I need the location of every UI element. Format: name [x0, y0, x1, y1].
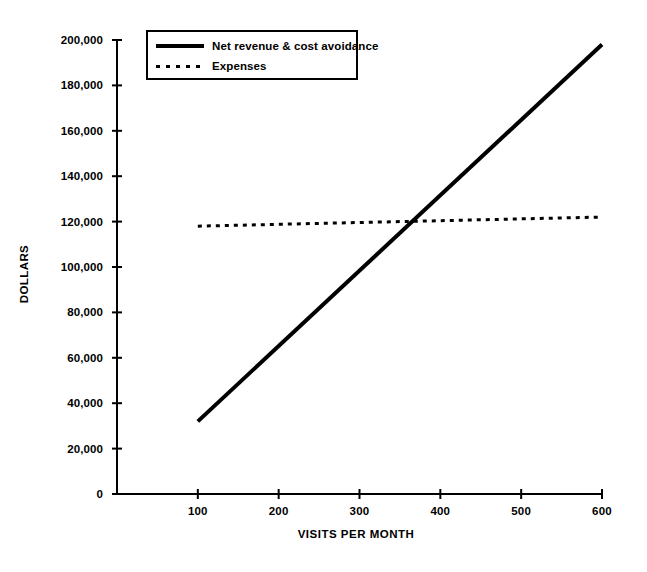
data-series-line	[198, 45, 602, 422]
data-series-line	[198, 217, 602, 226]
legend-item-expenses: Expenses	[154, 56, 267, 76]
x-axis-tick-label: 600	[577, 505, 627, 517]
y-axis-tick-label: 160,000	[0, 125, 103, 137]
legend-solid-line-swatch	[154, 40, 206, 52]
x-axis-tick-label: 200	[254, 505, 304, 517]
x-axis-tick-label: 500	[496, 505, 546, 517]
legend-dashed-line-swatch	[154, 60, 206, 72]
chart-figure: 020,00040,00060,00080,000100,000120,0001…	[0, 0, 647, 572]
y-axis-title: DOLLARS	[18, 234, 30, 314]
data-series-group	[198, 45, 602, 422]
y-axis-tick-label: 140,000	[0, 170, 103, 182]
legend-item-label: Expenses	[212, 60, 267, 72]
x-axis-tick-label: 400	[415, 505, 465, 517]
x-axis-title: VISITS PER MONTH	[0, 528, 647, 540]
y-axis-tick-label: 60,000	[0, 352, 103, 364]
legend-item-net-revenue: Net revenue & cost avoidance	[154, 36, 378, 56]
y-axis-tick-label: 0	[0, 488, 103, 500]
y-axis-tick-label: 200,000	[0, 34, 103, 46]
legend-item-label: Net revenue & cost avoidance	[212, 40, 378, 52]
y-axis-tick-label: 40,000	[0, 397, 103, 409]
y-axis-tick-label: 120,000	[0, 216, 103, 228]
y-axis-tick-label: 180,000	[0, 79, 103, 91]
y-axis-tick-label: 80,000	[0, 306, 103, 318]
y-axis-tick-label: 100,000	[0, 261, 103, 273]
chart-legend: Net revenue & cost avoidance Expenses	[146, 30, 358, 80]
y-axis-tick-label: 20,000	[0, 443, 103, 455]
x-axis-tick-label: 100	[173, 505, 223, 517]
x-axis-tick-label: 300	[335, 505, 385, 517]
